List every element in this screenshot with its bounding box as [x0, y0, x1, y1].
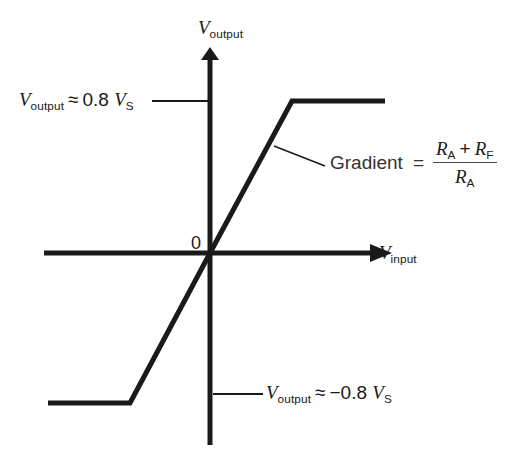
gradient-fraction-numerator: RA+RF — [433, 138, 497, 162]
numerator-second-variable: R — [475, 138, 487, 159]
numerator-first-subscript: A — [448, 148, 456, 161]
numerator-second-subscript: F — [486, 148, 493, 161]
negative-saturation-supply-variable: V — [372, 382, 384, 403]
y-axis-label-variable: V — [198, 17, 210, 38]
gradient-label: Gradient — [330, 152, 403, 174]
denominator-subscript: A — [467, 176, 475, 189]
positive-saturation-variable: V — [19, 89, 31, 110]
negative-saturation-subscript: output — [278, 392, 311, 405]
positive-saturation-value: 0.8 — [82, 89, 108, 110]
gradient-fraction: RA+RF RA — [433, 138, 497, 188]
numerator-first-variable: R — [436, 138, 448, 159]
x-axis-label-variable: V — [379, 242, 391, 263]
gradient-leader-line — [274, 146, 325, 166]
y-axis-label: Voutput — [198, 18, 243, 37]
positive-saturation-supply-variable: V — [114, 89, 126, 110]
x-axis-label: Vinput — [379, 243, 417, 262]
gradient-fraction-denominator: RA — [452, 163, 478, 188]
transfer-characteristic-figure: Voutput Vinput 0 Voutput≈0.8 VS Voutput≈… — [0, 0, 532, 459]
gradient-annotation: Gradient = RA+RF RA — [330, 138, 497, 188]
positive-saturation-approx-sign: ≈ — [68, 89, 78, 110]
negative-saturation-approx-sign: ≈ — [315, 382, 325, 403]
negative-saturation-variable: V — [266, 382, 278, 403]
origin-label: 0 — [191, 234, 201, 252]
positive-saturation-label: Voutput≈0.8 VS — [19, 90, 134, 109]
gradient-equals-sign: = — [413, 152, 424, 174]
negative-saturation-value: −0.8 — [329, 382, 367, 403]
denominator-variable: R — [455, 166, 467, 187]
x-axis-label-subscript: input — [391, 252, 417, 265]
positive-saturation-supply-subscript: S — [126, 99, 134, 112]
y-axis-label-subscript: output — [210, 27, 243, 40]
positive-saturation-subscript: output — [31, 99, 64, 112]
negative-saturation-supply-subscript: S — [384, 392, 392, 405]
negative-saturation-label: Voutput≈−0.8 VS — [266, 383, 392, 402]
y-axis-arrowhead — [201, 47, 219, 60]
numerator-plus-sign: + — [460, 138, 471, 159]
